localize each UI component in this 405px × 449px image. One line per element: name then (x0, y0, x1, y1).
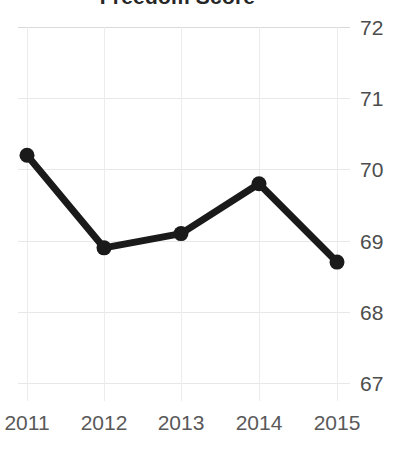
x-tick-label: 2015 (297, 412, 377, 433)
x-tick-label: 2011 (0, 412, 67, 433)
x-tick-label: 2014 (219, 412, 299, 433)
gridline-vertical (181, 27, 182, 401)
gridline-vertical (337, 27, 338, 401)
gridline-horizontal (18, 27, 350, 28)
plot-area (18, 27, 350, 401)
x-tick-label: 2012 (64, 412, 144, 433)
y-tick-label: 68 (360, 302, 400, 323)
gridline-vertical (27, 27, 28, 401)
chart-title: Freedom Score (0, 0, 355, 10)
gridline-horizontal (18, 241, 350, 242)
y-tick-label: 72 (360, 17, 400, 38)
y-tick-label: 70 (360, 159, 400, 180)
gridline-vertical (104, 27, 105, 401)
x-tick-label: 2013 (141, 412, 221, 433)
y-tick-label: 69 (360, 231, 400, 252)
gridline-horizontal (18, 312, 350, 313)
y-tick-label: 67 (360, 373, 400, 394)
gridline-horizontal (18, 169, 350, 170)
gridline-horizontal (18, 383, 350, 384)
gridline-horizontal (18, 98, 350, 99)
line-chart: Freedom Score 727170696867 2011201220132… (0, 0, 405, 449)
gridline-vertical (259, 27, 260, 401)
y-tick-label: 71 (360, 88, 400, 109)
